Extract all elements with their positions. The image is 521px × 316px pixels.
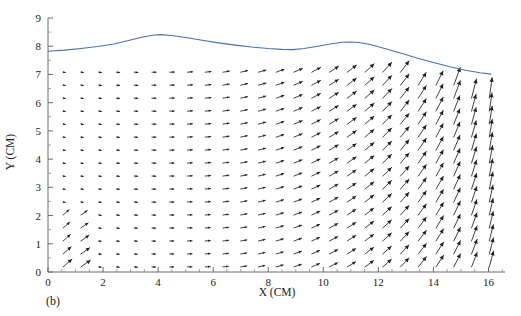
velocity-vector xyxy=(347,104,356,111)
velocity-vector xyxy=(347,118,356,125)
velocity-vector xyxy=(383,207,392,215)
x-tick-label: 12 xyxy=(373,276,384,288)
velocity-vector xyxy=(116,240,119,242)
velocity-vector xyxy=(436,176,443,189)
velocity-vector xyxy=(418,165,426,176)
x-tick-label: 14 xyxy=(428,276,440,288)
velocity-vector xyxy=(223,239,229,241)
velocity-vector xyxy=(418,257,426,267)
velocity-vector xyxy=(258,200,265,202)
velocity-vector xyxy=(347,249,356,254)
velocity-vector xyxy=(223,83,229,85)
velocity-vector xyxy=(330,132,339,137)
velocity-vector xyxy=(81,110,84,112)
velocity-vector xyxy=(187,84,192,86)
velocity-vector xyxy=(365,64,374,72)
panel-caption: (b) xyxy=(46,294,60,308)
velocity-vector xyxy=(365,116,374,124)
velocity-vector xyxy=(81,248,90,254)
velocity-vector xyxy=(312,133,321,137)
velocity-vector xyxy=(170,214,174,216)
velocity-vector xyxy=(418,138,426,150)
velocity-vector xyxy=(116,84,119,86)
velocity-vector xyxy=(294,186,302,189)
velocity-vector xyxy=(312,94,321,99)
x-tick-label: 2 xyxy=(100,276,106,288)
velocity-vector xyxy=(383,220,392,228)
velocity-vector xyxy=(241,265,247,267)
velocity-vector xyxy=(454,109,461,124)
velocity-vector xyxy=(330,106,339,112)
velocity-vector xyxy=(330,197,339,202)
velocity-vector xyxy=(223,148,229,150)
velocity-vector xyxy=(294,160,302,164)
velocity-vector xyxy=(81,71,84,73)
velocity-vector xyxy=(63,247,71,254)
velocity-vector xyxy=(454,162,461,176)
velocity-vector xyxy=(436,216,443,228)
velocity-vector xyxy=(223,187,229,189)
velocity-vector xyxy=(223,213,229,215)
velocity-vector xyxy=(99,253,102,255)
velocity-vector xyxy=(81,123,84,125)
velocity-vector xyxy=(241,161,248,163)
velocity-vector xyxy=(170,123,175,125)
velocity-vector xyxy=(205,123,211,125)
velocity-vector xyxy=(116,162,119,164)
velocity-vector xyxy=(294,94,302,98)
velocity-vector xyxy=(276,212,283,215)
velocity-vector xyxy=(383,75,392,85)
velocity-vector xyxy=(312,146,320,150)
velocity-vector xyxy=(436,110,443,124)
velocity-vector xyxy=(383,233,392,241)
velocity-vector xyxy=(330,171,339,176)
velocity-vector xyxy=(205,188,210,190)
velocity-vector xyxy=(347,157,356,163)
velocity-vector xyxy=(258,213,265,215)
velocity-vector xyxy=(258,239,265,241)
velocity-vector xyxy=(134,136,138,138)
velocity-vector xyxy=(152,240,156,242)
velocity-vector xyxy=(472,239,478,254)
velocity-vector xyxy=(81,235,89,241)
velocity-vector xyxy=(152,266,156,268)
velocity-vector xyxy=(365,169,374,176)
y-tick-label: 7 xyxy=(36,68,42,80)
x-tick-label: 10 xyxy=(318,276,330,288)
velocity-vector xyxy=(401,140,410,150)
velocity-vector xyxy=(347,170,356,176)
velocity-vector xyxy=(258,265,265,267)
velocity-vector xyxy=(383,89,392,99)
velocity-vector xyxy=(330,158,339,163)
velocity-vector xyxy=(276,95,284,98)
velocity-vector xyxy=(401,166,410,176)
velocity-vector xyxy=(241,252,247,254)
velocity-vector xyxy=(418,125,426,137)
velocity-vector xyxy=(187,123,192,125)
velocity-vector xyxy=(63,259,72,267)
velocity-vector xyxy=(63,84,65,86)
velocity-vector xyxy=(365,90,374,98)
velocity-vector xyxy=(258,148,265,151)
velocity-vector xyxy=(258,108,265,111)
velocity-vector xyxy=(347,65,356,72)
velocity-vector xyxy=(454,122,461,137)
y-tick-label: 0 xyxy=(36,266,42,278)
velocity-vector xyxy=(116,110,119,112)
velocity-vector xyxy=(436,84,443,98)
velocity-vector xyxy=(294,225,302,228)
velocity-vector xyxy=(418,244,426,254)
velocity-vector xyxy=(276,186,283,189)
velocity-vector xyxy=(223,226,229,228)
velocity-vector xyxy=(436,255,444,267)
y-tick-label: 5 xyxy=(36,125,42,137)
velocity-vector xyxy=(454,96,460,111)
velocity-vector xyxy=(205,84,211,86)
velocity-vector xyxy=(312,159,320,163)
velocity-vector xyxy=(276,69,284,72)
velocity-vector xyxy=(294,68,302,72)
velocity-vector xyxy=(294,81,302,85)
velocity-vector xyxy=(276,121,284,124)
velocity-vector xyxy=(134,240,137,242)
velocity-vector xyxy=(330,223,338,228)
